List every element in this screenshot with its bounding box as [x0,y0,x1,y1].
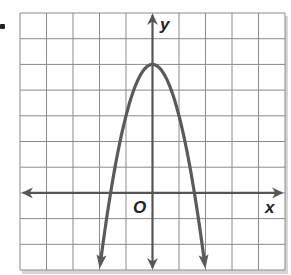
y-axis-label: y [159,15,171,34]
coordinate-graph: y x O [0,0,291,275]
origin-label: O [133,198,146,217]
x-axis-label: x [264,198,276,217]
